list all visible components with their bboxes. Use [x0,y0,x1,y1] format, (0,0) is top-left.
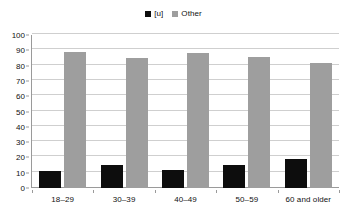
bar-u[interactable] [285,159,307,188]
y-axis-tick-label: 90 [16,46,25,55]
y-axis-tick-mark [26,126,29,127]
y-axis-tick-label: 40 [16,122,25,131]
y-axis-tick-mark [26,111,29,112]
y-axis-tick-label: 70 [16,76,25,85]
y-axis-tick-mark [26,80,29,81]
y-axis-tick-mark [26,142,29,143]
x-axis-tick-label: 60 and older [285,195,331,204]
x-axis-tick-mark [32,190,33,193]
y-axis-tick-mark [26,172,29,173]
x-axis-tick-mark [278,190,279,193]
y-axis-tick-mark [26,96,29,97]
bar-other[interactable] [126,58,148,188]
y-axis: 0102030405060708090100 [0,35,29,188]
bar-group [93,35,154,188]
x-axis-tick-mark [216,190,217,193]
y-axis-tick-mark [26,188,29,189]
bar-u[interactable] [223,165,245,188]
y-axis-tick-mark [26,157,29,158]
y-axis-tick-mark [26,50,29,51]
y-axis-tick-label: 10 [16,168,25,177]
bar-other[interactable] [187,53,209,188]
bar-group [216,35,277,188]
bar-other[interactable] [310,63,332,188]
x-axis-tick-label: 30–39 [113,195,136,204]
y-axis-tick-mark [26,65,29,66]
y-axis-tick-label: 80 [16,61,25,70]
y-axis-tick-label: 100 [12,31,25,40]
x-axis-tick-mark [155,190,156,193]
x-axis-tick-label: 40–49 [174,195,197,204]
x-axis-tick-label: 50–59 [236,195,259,204]
bar-u[interactable] [101,165,123,188]
bar-u[interactable] [39,171,61,188]
legend-item-label: Other [181,10,202,18]
square-swatch-icon [145,11,151,17]
gridline [32,33,339,34]
bar-other[interactable] [248,57,270,188]
bar-other[interactable] [64,52,86,188]
y-axis-tick-label: 20 [16,153,25,162]
x-axis: 18–2930–3940–4950–5960 and older [32,190,339,210]
bar-chart: [u] Other 0102030405060708090100 18–2930… [0,0,347,217]
x-axis-tick-mark [93,190,94,193]
y-axis-tick-mark [26,35,29,36]
bar-group [32,35,93,188]
x-axis-tick-mark [339,190,340,193]
bars-layer [32,35,339,188]
chart-legend: [u] Other [0,8,347,20]
bar-group [278,35,339,188]
x-axis-tick-label: 18–29 [51,195,74,204]
bar-u[interactable] [162,170,184,188]
legend-item-label: [u] [154,10,163,18]
bar-group [155,35,216,188]
legend-item-other[interactable]: Other [172,10,202,18]
legend-item-u[interactable]: [u] [145,10,163,18]
y-axis-tick-label: 60 [16,92,25,101]
y-axis-tick-label: 0 [21,184,25,193]
square-swatch-icon [172,11,178,17]
y-axis-tick-label: 30 [16,138,25,147]
y-axis-tick-label: 50 [16,107,25,116]
